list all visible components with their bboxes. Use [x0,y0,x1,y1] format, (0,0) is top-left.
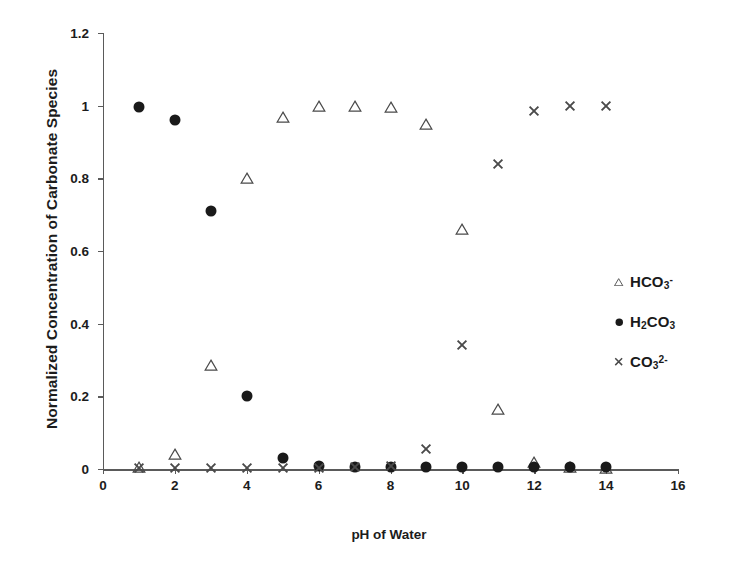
data-point-h2co3 [456,461,469,474]
y-tick-label: 0.8 [70,171,89,186]
y-tick-label: 1 [81,98,89,113]
data-point-co32 [241,462,253,474]
data-point-co32 [385,460,397,472]
data-point-hco3 [492,403,505,415]
legend-item: CO32- [608,342,748,382]
y-tick-label: 1.2 [70,26,89,41]
x-tick-label: 0 [99,478,107,493]
y-tick-label: 0.2 [70,389,89,404]
data-point-h2co3 [564,461,577,474]
x-tick-label: 16 [670,478,685,493]
data-point-hco3 [420,118,433,130]
y-tick-label: 0.4 [70,316,89,331]
legend-triangle-open-icon [608,278,630,286]
y-tick [98,33,104,34]
data-point-h2co3 [600,461,613,474]
x-tick-label: 8 [387,478,395,493]
y-tick [98,396,104,397]
y-tick [98,324,104,325]
data-point-h2co3 [133,101,146,114]
y-axis-title: Normalized Concentration of Carbonate Sp… [43,29,61,469]
data-point-hco3 [384,102,397,114]
legend-item: HCO3- [608,262,748,302]
x-axis-title: pH of Water [104,527,674,542]
legend-item: H2CO3 [608,302,748,342]
legend-x-cross-icon [608,357,630,366]
x-tick-label: 10 [455,478,470,493]
data-point-co32 [420,443,432,455]
data-point-hco3 [168,449,181,461]
x-tick-label: 2 [171,478,179,493]
data-point-hco3 [348,100,361,112]
data-point-co32 [313,462,325,474]
data-point-hco3 [456,223,469,235]
x-tick-label: 12 [527,478,542,493]
y-tick [98,106,104,107]
data-point-hco3 [276,111,289,123]
data-point-hco3 [204,360,217,372]
data-point-co32 [133,462,145,474]
data-point-co32 [169,462,181,474]
legend-item-label: CO32- [630,353,668,371]
carbonate-speciation-chart: Normalized Concentration of Carbonate Sp… [0,0,750,582]
data-point-co32 [564,100,576,112]
legend-circle-filled-icon [608,318,630,327]
data-point-hco3 [240,173,253,185]
data-point-h2co3 [169,114,182,127]
y-tick [98,251,104,252]
y-tick [98,178,104,179]
data-point-h2co3 [492,461,505,474]
data-point-hco3 [312,100,325,112]
data-point-co32 [492,158,504,170]
data-point-co32 [349,461,361,473]
data-point-co32 [456,339,468,351]
legend: HCO3-H2CO3CO32- [608,262,748,382]
data-point-h2co3 [420,461,433,474]
x-tick-label: 6 [315,478,323,493]
data-point-co32 [528,105,540,117]
data-point-h2co3 [241,390,254,403]
y-tick-label: 0.6 [70,244,89,259]
x-tick [103,469,104,474]
data-point-co32 [277,462,289,474]
data-point-co32 [205,462,217,474]
plot-area: 00.20.40.60.811.2 0246810121416 [103,34,678,470]
data-point-co32 [600,100,612,112]
data-point-h2co3 [205,205,218,218]
x-tick-label: 14 [599,478,614,493]
x-tick [678,469,679,474]
legend-item-label: H2CO3 [630,313,675,331]
data-point-h2co3 [528,461,541,474]
x-tick-label: 4 [243,478,251,493]
legend-item-label: HCO3- [630,273,673,291]
y-tick-label: 0 [81,462,89,477]
